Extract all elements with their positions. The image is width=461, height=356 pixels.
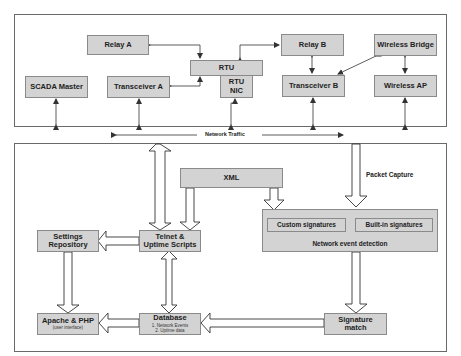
- scada-master-node: SCADA Master: [25, 76, 88, 98]
- transceiver-b-node: Transceiver B: [282, 75, 345, 97]
- telnet-uptime-scripts-node: Telnet & Uptime Scripts: [139, 230, 201, 252]
- relay-b-label: Relay B: [299, 41, 327, 49]
- signature-match-line2: match: [344, 324, 366, 332]
- custom-signatures-label: Custom signatures: [277, 221, 336, 228]
- wireless-bridge-node: Wireless Bridge: [374, 34, 437, 56]
- relay-a-label: Relay A: [104, 41, 131, 49]
- settings-repository-node: Settings Repository: [37, 230, 99, 252]
- transceiver-a-label: Transceiver A: [114, 83, 163, 91]
- rtu-nic-label-line2: NIC: [230, 87, 243, 95]
- custom-signatures-node: Custom signatures: [267, 218, 346, 232]
- network-event-detection-label: Network event detection: [312, 240, 387, 247]
- packet-capture-label: Packet Capture: [366, 171, 413, 178]
- wireless-ap-node: Wireless AP: [374, 75, 437, 97]
- builtin-signatures-label: Built-in signatures: [365, 221, 422, 228]
- signature-match-node: Signature match: [324, 313, 387, 335]
- apache-php-node: Apache & PHP (user interface): [37, 313, 99, 335]
- database-label: Database: [153, 314, 186, 322]
- database-item-uptime-data: 2. Uptime data: [155, 328, 184, 333]
- transceiver-a-node: Transceiver A: [107, 76, 170, 98]
- rtu-node: RTU: [190, 60, 263, 76]
- transceiver-b-label: Transceiver B: [289, 82, 338, 90]
- xml-label: XML: [224, 174, 240, 182]
- telnet-label-line2: Uptime Scripts: [144, 241, 197, 249]
- scada-master-label: SCADA Master: [30, 83, 83, 91]
- wireless-ap-label: Wireless AP: [384, 82, 427, 90]
- database-node: Database 1. Network Events 2. Uptime dat…: [139, 313, 201, 335]
- builtin-signatures-node: Built-in signatures: [355, 218, 433, 232]
- rtu-label: RTU: [219, 64, 234, 72]
- xml-node: XML: [180, 168, 283, 188]
- wireless-bridge-label: Wireless Bridge: [377, 41, 434, 49]
- settings-label-line2: Repository: [48, 241, 87, 249]
- rtu-nic-node: RTU NIC: [220, 75, 253, 98]
- apache-php-sublabel: (user interface): [53, 325, 83, 330]
- relay-a-node: Relay A: [87, 35, 149, 55]
- network-traffic-label: Network Traffic: [205, 131, 245, 137]
- apache-php-label: Apache & PHP: [42, 317, 94, 325]
- relay-b-node: Relay B: [281, 34, 344, 56]
